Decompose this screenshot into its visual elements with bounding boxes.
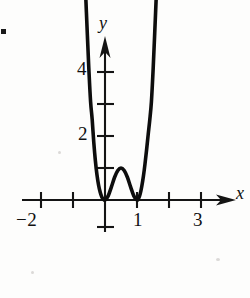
x-tick-label-1: 1 [133,210,143,229]
figure-page: −2 1 3 2 4 x y [0,0,250,298]
x-axis-label: x [236,184,244,202]
x-tick-label-3: 3 [193,210,203,229]
y-axis-label: y [99,14,107,32]
quartic-curve [85,0,157,200]
graph-canvas [0,0,250,298]
x-tick-label-minus-2: −2 [16,210,37,229]
y-tick-label-4: 4 [77,59,87,78]
y-tick-label-2: 2 [78,124,88,143]
